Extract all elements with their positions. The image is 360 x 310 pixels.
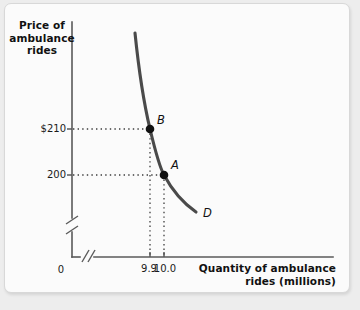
demand-curve-label: D bbox=[203, 206, 212, 220]
axis-origin-label: 0 bbox=[42, 264, 64, 275]
y-axis-tick-label-210: $210 bbox=[22, 123, 66, 134]
data-point-a-marker bbox=[160, 171, 169, 180]
x-axis-break-mark-right bbox=[88, 250, 95, 262]
figure-container: Price of ambulance rides Quantity of amb… bbox=[0, 0, 360, 310]
x-axis-tick-label-10-0: 10.0 bbox=[148, 263, 182, 274]
x-axis-break-mark-left bbox=[82, 250, 89, 262]
data-point-a-label: A bbox=[171, 158, 179, 172]
data-point-b-marker bbox=[146, 125, 155, 134]
demand-curve-line bbox=[135, 33, 196, 212]
data-point-b-label: B bbox=[157, 113, 165, 127]
y-axis-tick-label-200: 200 bbox=[22, 169, 66, 180]
x-axis-title: Quantity of ambulance rides (millions) bbox=[198, 262, 336, 287]
y-axis-title: Price of ambulance rides bbox=[6, 19, 78, 57]
